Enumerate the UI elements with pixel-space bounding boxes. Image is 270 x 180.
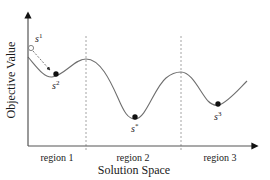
region-label-2: region 2 (116, 153, 149, 163)
x-axis-label: Solution Space (98, 164, 170, 176)
point-label-s3: s3 (214, 111, 221, 122)
point-s-star-marker (132, 114, 137, 119)
y-axis-label: Objective Value (4, 42, 19, 119)
point-label-s-star-sup: * (135, 122, 139, 130)
point-label-s3-sup: 3 (218, 110, 222, 118)
point-label-s2: s2 (52, 80, 59, 91)
point-label-s1-sup: 1 (39, 32, 43, 40)
region-label-3: region 3 (203, 153, 236, 163)
objective-curve (28, 57, 247, 119)
point-s2-marker (53, 71, 58, 76)
point-label-s2-sup: 2 (56, 79, 60, 87)
region-label-1: region 1 (40, 153, 73, 163)
point-s1-marker (28, 45, 33, 50)
point-s3-marker (215, 101, 220, 106)
point-label-s-star: s* (131, 123, 138, 134)
point-label-s1: s1 (35, 33, 42, 44)
